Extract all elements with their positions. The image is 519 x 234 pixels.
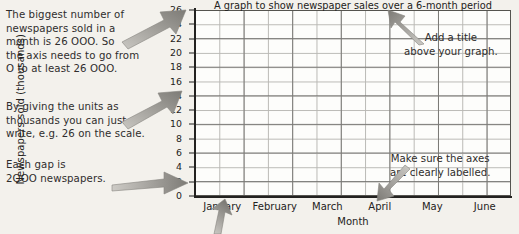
arrow-to-y-axis-gap-icon bbox=[112, 171, 190, 195]
y-tick-label: 18 bbox=[170, 63, 182, 72]
y-tick-label: 20 bbox=[170, 48, 182, 57]
y-tick-mark bbox=[189, 124, 195, 125]
y-tick-mark bbox=[189, 167, 195, 168]
x-axis-label: Month bbox=[337, 216, 368, 227]
x-axis-line bbox=[194, 196, 512, 198]
x-tick-label: June bbox=[474, 201, 496, 212]
arrow-to-x-axis-labels-icon bbox=[204, 200, 236, 234]
y-axis-label: Newspapers sold (thousands) bbox=[15, 35, 26, 185]
y-tick-mark bbox=[189, 110, 195, 111]
arrow-to-y-axis-scale-icon bbox=[120, 88, 186, 126]
y-tick-mark bbox=[189, 153, 195, 154]
x-tick-label: February bbox=[253, 201, 297, 212]
arrow-to-axis-labels-icon bbox=[376, 168, 414, 206]
arrow-to-graph-title-icon bbox=[388, 8, 428, 48]
x-tick-label: May bbox=[422, 201, 443, 212]
y-tick-mark bbox=[189, 95, 195, 96]
y-tick-label: 16 bbox=[170, 77, 182, 86]
arrow-to-y-axis-top-icon bbox=[120, 6, 190, 46]
y-tick-mark bbox=[189, 81, 195, 82]
y-tick-label: 8 bbox=[176, 134, 182, 143]
y-tick-mark bbox=[189, 196, 195, 197]
y-tick-mark bbox=[189, 67, 195, 68]
y-tick-mark bbox=[189, 52, 195, 53]
worksheet-page: The biggest number of newspapers sold in… bbox=[0, 0, 519, 234]
annotation-line: Make sure the axes bbox=[390, 152, 490, 166]
graph-title: A graph to show newspaper sales over a 6… bbox=[214, 0, 492, 11]
x-tick-label: March bbox=[312, 201, 342, 212]
y-tick-label: 6 bbox=[176, 148, 182, 157]
y-tick-mark bbox=[189, 138, 195, 139]
